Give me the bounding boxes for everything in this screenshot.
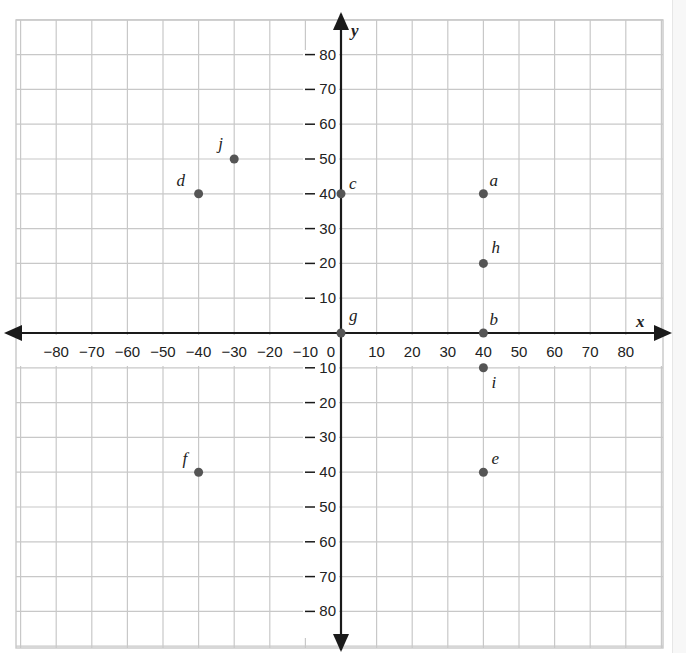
data-point-i: [479, 363, 488, 372]
data-point-g: [337, 329, 346, 338]
data-point-f: [194, 468, 203, 477]
y-tick-label: 30: [319, 220, 336, 237]
data-point-a: [479, 189, 488, 198]
y-tick-label: 60: [319, 533, 336, 550]
data-point-j: [230, 155, 239, 164]
x-tick-label: −40: [186, 343, 211, 360]
x-tick-label: 30: [439, 343, 456, 360]
data-point-e: [479, 468, 488, 477]
point-label-j: j: [216, 134, 223, 153]
data-point-h: [479, 259, 488, 268]
data-point-c: [337, 189, 346, 198]
y-axis-label: y: [349, 21, 359, 40]
x-tick-label: −10: [293, 343, 318, 360]
y-axis-down-arrow-icon: [333, 634, 349, 652]
point-label-g: g: [349, 306, 358, 325]
point-label-i: i: [491, 373, 496, 392]
x-tick-label: −50: [150, 343, 175, 360]
y-tick-label: 40: [319, 185, 336, 202]
x-tick-label: −60: [115, 343, 140, 360]
x-tick-label: −30: [221, 343, 246, 360]
point-label-b: b: [489, 310, 498, 329]
point-label-a: a: [489, 171, 498, 190]
y-tick-label: 20: [319, 394, 336, 411]
y-tick-label: 60: [319, 115, 336, 132]
y-tick-label: 10: [319, 359, 336, 376]
y-axis-up-arrow-icon: [333, 12, 349, 30]
y-tick-label: 70: [319, 568, 336, 585]
y-tick-label: 40: [319, 463, 336, 480]
x-tick-label: 10: [368, 343, 385, 360]
x-tick-label: 80: [617, 343, 634, 360]
x-tick-label: 60: [546, 343, 563, 360]
point-label-c: c: [349, 174, 357, 193]
x-tick-label: 70: [582, 343, 599, 360]
y-tick-label: 10: [319, 289, 336, 306]
x-tick-label: 0: [327, 343, 335, 360]
point-label-e: e: [491, 449, 499, 468]
x-tick-label: 50: [511, 343, 528, 360]
x-axis-label: x: [635, 312, 645, 331]
x-tick-label: 20: [404, 343, 421, 360]
x-tick-label: −70: [79, 343, 104, 360]
x-tick-label: 40: [475, 343, 492, 360]
y-tick-label: 80: [319, 46, 336, 63]
data-point-b: [479, 329, 488, 338]
y-tick-label: 70: [319, 80, 336, 97]
y-tick-label: 20: [319, 254, 336, 271]
x-tick-label: −20: [257, 343, 282, 360]
y-tick-label: 80: [319, 602, 336, 619]
y-tick-label: 50: [319, 150, 336, 167]
x-axis-left-arrow-icon: [4, 325, 22, 341]
point-label-h: h: [491, 238, 500, 257]
point-label-d: d: [177, 171, 186, 190]
y-tick-label: 30: [319, 428, 336, 445]
page-edge: [672, 0, 686, 653]
point-label-f: f: [183, 449, 190, 468]
y-tick-label: 50: [319, 498, 336, 515]
data-point-d: [194, 189, 203, 198]
x-tick-label: −80: [43, 343, 68, 360]
